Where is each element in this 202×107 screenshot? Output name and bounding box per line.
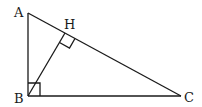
label-c: C bbox=[184, 90, 194, 105]
right-angle-mark-h bbox=[60, 39, 76, 49]
triangle-diagram: A H B C bbox=[0, 0, 202, 107]
segment-ac bbox=[28, 13, 181, 96]
segment-bh bbox=[28, 33, 65, 96]
label-a: A bbox=[13, 5, 24, 20]
label-h: H bbox=[64, 17, 75, 32]
label-b: B bbox=[14, 91, 24, 106]
